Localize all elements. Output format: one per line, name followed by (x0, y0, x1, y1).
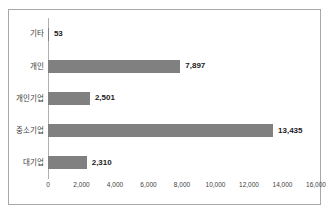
bar (48, 60, 180, 73)
bar-track: 7,897 (48, 50, 321, 82)
x-axis-tick-labels: 02,0004,0006,0008,00010,00012,00014,0001… (48, 182, 316, 196)
bar-chart-figure: 대기업2,310중소기업13,435개인기업2,501개인7,897기타53 0… (0, 0, 330, 214)
bar-track: 2,310 (48, 147, 321, 179)
bar-track: 2,501 (48, 82, 321, 114)
x-tick-label: 16,000 (306, 182, 326, 189)
category-label: 중소기업 (8, 127, 44, 135)
x-tick-label: 4,000 (107, 182, 123, 189)
x-tick-label: 0 (46, 182, 50, 189)
bar-rows-container: 대기업2,310중소기업13,435개인기업2,501개인7,897기타53 (8, 18, 321, 179)
bar-value-label: 13,435 (278, 127, 302, 135)
bar-row: 개인기업2,501 (8, 82, 321, 114)
category-label: 개인 (8, 63, 44, 71)
category-label: 개인기업 (8, 95, 44, 103)
x-tick-label: 6,000 (140, 182, 156, 189)
bar-row: 중소기업13,435 (8, 115, 321, 147)
bar-value-label: 7,897 (185, 62, 205, 70)
bar-track: 53 (48, 18, 321, 50)
x-tick-label: 2,000 (73, 182, 89, 189)
x-tick-label: 10,000 (206, 182, 226, 189)
x-tick-label: 14,000 (273, 182, 293, 189)
category-label: 대기업 (8, 159, 44, 167)
bar (48, 28, 49, 41)
bar-value-label: 53 (54, 30, 63, 38)
x-tick-label: 8,000 (174, 182, 190, 189)
bar-row: 개인7,897 (8, 50, 321, 82)
bar (48, 156, 87, 169)
bar-row: 기타53 (8, 18, 321, 50)
bar-value-label: 2,501 (95, 94, 115, 102)
bar (48, 92, 90, 105)
x-tick-label: 12,000 (239, 182, 259, 189)
bar-value-label: 2,310 (92, 159, 112, 167)
bar-track: 13,435 (48, 115, 321, 147)
bar-row: 대기업2,310 (8, 147, 321, 179)
category-label: 기타 (8, 30, 44, 38)
bar (48, 124, 273, 137)
